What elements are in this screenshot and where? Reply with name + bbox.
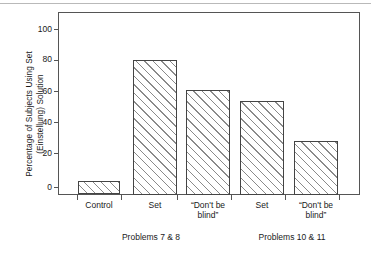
x-axis-label-set-2: Set bbox=[232, 200, 292, 210]
x-axis-label-control: Control bbox=[69, 200, 129, 210]
bar-dont-be-blind-problems-7-8 bbox=[186, 90, 230, 195]
group-label-problems-10-11: Problems 10 & 11 bbox=[232, 232, 352, 242]
y-tick-label-60: 60 bbox=[26, 87, 52, 96]
y-tick-label-20: 20 bbox=[26, 149, 52, 158]
x-axis-label-dont-be-blind-1: “Don't be blind” bbox=[178, 200, 238, 220]
y-axis-title-line-2: (Einstellung) Solution bbox=[35, 19, 46, 209]
y-tick-label-80: 80 bbox=[26, 55, 52, 64]
y-axis-title-line-1: Percentage of Subjects Using Set bbox=[24, 19, 35, 209]
y-tick-label-0: 0 bbox=[26, 183, 52, 192]
y-tick-label-40: 40 bbox=[26, 118, 52, 127]
bar-chart-figure: Percentage of Subjects Using Set (Einste… bbox=[0, 0, 371, 257]
y-tick-label-100: 100 bbox=[26, 25, 52, 34]
bar-set-problems-10-11 bbox=[240, 101, 284, 195]
x-axis-label-set-1: Set bbox=[125, 200, 185, 210]
bar-set-problems-7-8 bbox=[133, 60, 177, 195]
y-axis-title: Percentage of Subjects Using Set (Einste… bbox=[24, 19, 46, 209]
page-rule-divider bbox=[0, 3, 371, 4]
x-axis-label-dont-be-blind-2: “Don't be blind” bbox=[286, 200, 346, 220]
bar-control bbox=[78, 181, 120, 194]
bar-dont-be-blind-problems-10-11 bbox=[294, 141, 338, 195]
group-label-problems-7-8: Problems 7 & 8 bbox=[96, 232, 206, 242]
